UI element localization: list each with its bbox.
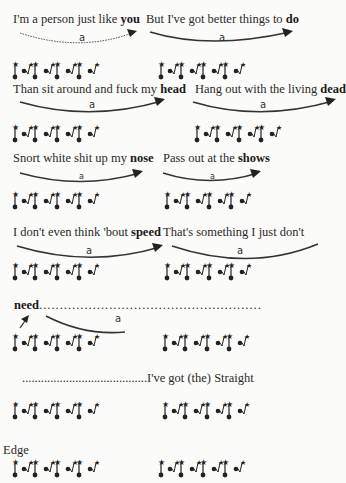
lyric-line-6: ........................................… bbox=[22, 371, 254, 385]
arc-label: a bbox=[115, 313, 121, 324]
lyric-text: Edge bbox=[3, 443, 29, 457]
lyric-line-3-left: Snort white shit up my nose bbox=[13, 151, 154, 165]
lyric-line-2-left: Than sit around and fuck my head bbox=[13, 82, 186, 96]
lyric-text: Than sit around and fuck my bbox=[13, 82, 160, 96]
lyric-text: I'm a person just like bbox=[13, 12, 120, 26]
lyric-line-5: need....................................… bbox=[14, 298, 262, 312]
lyric-text: That's something I just don't bbox=[163, 225, 304, 239]
lyric-text: But I've got better things to bbox=[146, 12, 286, 26]
arc-label: a bbox=[79, 172, 84, 181]
dotted-leader: ........................................… bbox=[39, 298, 262, 312]
lyric-line-4-left: I don't even think 'bout speed bbox=[13, 225, 161, 239]
rhyme-word: shows bbox=[238, 151, 270, 165]
lyric-text: Snort white shit up my bbox=[13, 151, 130, 165]
rhyme-word: do bbox=[286, 12, 299, 26]
stress-glyph-row bbox=[11, 261, 341, 283]
lyric-text: ........................................… bbox=[22, 371, 254, 385]
arc-label: a bbox=[260, 99, 266, 110]
rhyme-arc-dotted bbox=[0, 28, 346, 52]
stress-glyph-row bbox=[11, 123, 341, 145]
arc-label: a bbox=[210, 172, 215, 181]
arc-label: a bbox=[89, 99, 95, 110]
lyric-line-3-right: Pass out at the shows bbox=[163, 151, 270, 165]
lyric-line-4-right: That's something I just don't bbox=[163, 225, 304, 239]
rhyme-arc bbox=[0, 96, 346, 120]
lyric-line-1-left: I'm a person just like you bbox=[13, 12, 140, 26]
stress-glyph-row bbox=[11, 458, 341, 480]
rhyme-word: nose bbox=[130, 151, 154, 165]
stress-glyph-row bbox=[11, 400, 341, 422]
arc-label: a bbox=[79, 32, 85, 43]
lyric-text: Hang out with the living bbox=[195, 82, 320, 96]
lyric-line-7: Edge bbox=[3, 443, 29, 457]
rhyme-word: dead bbox=[320, 82, 346, 96]
rhyme-arc bbox=[0, 170, 346, 190]
arc-label: a bbox=[237, 245, 243, 256]
stress-glyph-row bbox=[11, 60, 341, 82]
arc-label: a bbox=[86, 245, 92, 256]
arc-label: a bbox=[219, 32, 225, 43]
stress-glyph-row bbox=[11, 190, 341, 212]
lyric-line-1-right: But I've got better things to do bbox=[146, 12, 299, 26]
lyric-text: I don't even think 'bout bbox=[13, 225, 131, 239]
rhyme-arc bbox=[0, 312, 346, 334]
rhyme-word: head bbox=[160, 82, 186, 96]
rhyme-word: need bbox=[14, 298, 39, 312]
lyric-text: Pass out at the bbox=[163, 151, 238, 165]
rhyme-word: you bbox=[120, 12, 139, 26]
stress-glyph-row bbox=[11, 332, 341, 354]
rhyme-word: speed bbox=[131, 225, 161, 239]
lyric-line-2-right: Hang out with the living dead bbox=[195, 82, 346, 96]
